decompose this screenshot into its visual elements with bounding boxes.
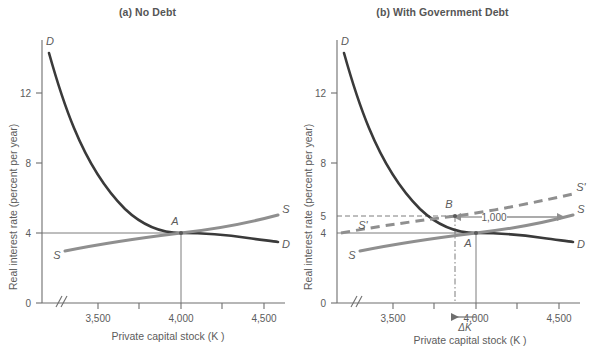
panel-b-ytick-0: 0 — [320, 298, 326, 309]
panel-a-xlabel: Private capital stock (K ) — [111, 330, 224, 342]
panel-b-y-ticks: 0 4 5 8 12 — [315, 88, 337, 309]
panel-a-demand-curve — [49, 53, 278, 242]
panel-b-ytick-12: 12 — [315, 88, 327, 99]
panel-b-axis-break — [351, 296, 362, 307]
panel-b-title: (b) With Government Debt — [295, 6, 590, 18]
panel-a-ylabel: Real interest rate (percent per year) — [7, 124, 19, 290]
panel-b-supply-shift-curve — [341, 194, 573, 233]
panel-a-y-ticks: 0 4 8 12 — [20, 88, 42, 309]
panel-b-capital-change-label: ΔK — [457, 322, 473, 333]
panel-no-debt: (a) No Debt Real interest rate (percent … — [0, 0, 295, 346]
panel-a-ytick-4: 4 — [25, 228, 31, 239]
panel-b-point-b-label: B — [445, 198, 452, 210]
panel-b-point-a-label: A — [463, 237, 471, 249]
panel-b-point-b-dot — [453, 214, 457, 218]
panel-b-ytick-5: 5 — [320, 211, 326, 222]
panel-b-xlabel: Private capital stock (K ) — [413, 334, 526, 346]
panel-b-ytick-4: 4 — [320, 228, 326, 239]
panel-b-demand-curve — [344, 53, 573, 242]
panel-b-supply-shift-label-left: S' — [358, 219, 368, 231]
panel-b-demand-label-top: D — [341, 35, 349, 47]
panel-b-x-ticks: 3,500 4,000 4,500 — [380, 303, 571, 324]
panel-a-x-ticks: 3,500 4,000 4,500 — [85, 303, 276, 324]
panel-b-supply-label-left: S — [348, 249, 356, 261]
panel-a-demand-label-right: D — [282, 238, 290, 250]
panel-a-title: (a) No Debt — [0, 6, 295, 18]
panel-a-plot: Real interest rate (percent per year) 0 … — [0, 0, 295, 346]
panel-b-point-a-dot — [474, 231, 478, 235]
panel-b-shift-amount-label: 1,000 — [481, 212, 506, 223]
panel-b-supply-label-right: S — [577, 203, 585, 215]
panel-b-ytick-8: 8 — [320, 158, 326, 169]
panel-a-axis-break — [56, 296, 67, 307]
panel-a-ytick-0: 0 — [25, 298, 31, 309]
panel-b-xtick-3500: 3,500 — [380, 313, 405, 324]
panel-a-ytick-12: 12 — [20, 88, 32, 99]
figure-government-debt-capital: (a) No Debt Real interest rate (percent … — [0, 0, 590, 346]
panel-b-plot: Real interest rate (percent per year) 0 … — [295, 0, 590, 346]
panel-b-ylabel: Real interest rate (percent per year) — [302, 124, 314, 290]
panel-a-point-a-dot — [179, 231, 183, 235]
panel-a-demand-label-top: D — [46, 35, 54, 47]
panel-b-supply-shift-label-right: S' — [576, 181, 586, 193]
panel-with-government-debt: (b) With Government Debt Real interest r… — [295, 0, 590, 346]
panel-a-supply-label-left: S — [53, 249, 61, 261]
panel-a-xtick-4000: 4,000 — [168, 313, 193, 324]
panel-b-xtick-4500: 4,500 — [546, 313, 571, 324]
panel-b-demand-label-right: D — [577, 238, 585, 250]
panel-a-ytick-8: 8 — [25, 158, 31, 169]
panel-a-point-a-label: A — [170, 215, 178, 227]
panel-a-xtick-4500: 4,500 — [251, 313, 276, 324]
panel-a-supply-label-right: S — [282, 203, 290, 215]
panel-a-xtick-3500: 3,500 — [85, 313, 110, 324]
